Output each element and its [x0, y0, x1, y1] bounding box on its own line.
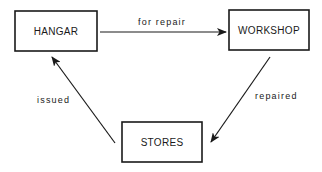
node-hangar: HANGAR [15, 11, 97, 51]
hangar-label: HANGAR [34, 26, 79, 37]
edge-label-repaired: repaired [255, 91, 298, 101]
edge-label-issued: issued [37, 95, 70, 105]
edge-stores-to-hangar: issued [37, 57, 115, 143]
edge-hangar-to-workshop: for repair [100, 17, 226, 32]
flow-diagram: HANGAR WORKSHOP STORES for repair repair… [0, 0, 322, 172]
edge-workshop-to-stores: repaired [211, 57, 298, 142]
edge-label-for-repair: for repair [138, 17, 186, 27]
workshop-label: WORKSHOP [238, 25, 300, 36]
node-stores: STORES [122, 122, 202, 162]
node-workshop: WORKSHOP [229, 10, 309, 50]
stores-label: STORES [141, 137, 184, 148]
